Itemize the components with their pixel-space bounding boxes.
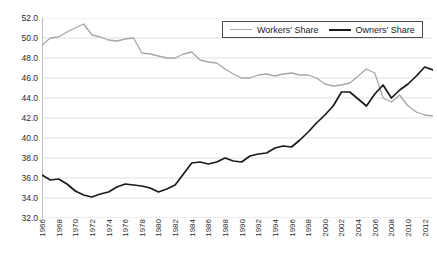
y-axis-tick-label: 38.0 — [0, 154, 38, 162]
x-axis-tick-label: 2002 — [337, 219, 346, 237]
legend-swatch-workers-share — [230, 29, 252, 30]
x-axis-tick-label: 1966 — [38, 219, 47, 237]
y-axis-tick-label: 46.0 — [0, 74, 38, 82]
x-axis-tick-label: 2000 — [321, 219, 330, 237]
line-chart: 52.050.048.046.044.042.040.038.036.034.0… — [0, 0, 437, 260]
x-axis-tick-label: 1972 — [88, 219, 97, 237]
x-axis-tick-label: 1984 — [188, 219, 197, 237]
x-axis-tick-label: 1990 — [238, 219, 247, 237]
legend-label-workers-share: Workers' Share — [257, 25, 319, 35]
y-axis-tick-label: 48.0 — [0, 54, 38, 62]
plot-svg — [42, 18, 433, 218]
y-axis-tick-label: 42.0 — [0, 114, 38, 122]
y-axis-tick-label: 44.0 — [0, 94, 38, 102]
x-axis-tick-label: 2012 — [421, 219, 430, 237]
chart-legend: Workers' Share Owners' Share — [222, 21, 423, 38]
x-axis-labels: 1966196819701972197419761978198019821984… — [42, 219, 433, 260]
x-axis-tick-label: 1978 — [138, 219, 147, 237]
x-axis-tick-label: 1970 — [71, 219, 80, 237]
legend-swatch-owners-share — [329, 29, 351, 31]
x-axis-tick-label: 1976 — [121, 219, 130, 237]
x-axis-tick-label: 2010 — [404, 219, 413, 237]
series-line-owners-share — [42, 67, 433, 197]
x-axis-tick-label: 1988 — [221, 219, 230, 237]
y-axis-tick-label: 50.0 — [0, 34, 38, 42]
y-axis-tick-label: 34.0 — [0, 194, 38, 202]
y-axis-labels: 52.050.048.046.044.042.040.038.036.034.0… — [0, 0, 38, 236]
legend-label-owners-share: Owners' Share — [356, 25, 415, 35]
x-axis-tick-label: 2006 — [371, 219, 380, 237]
legend-item-workers-share: Workers' Share — [230, 25, 319, 35]
y-axis-tick-label: 40.0 — [0, 134, 38, 142]
x-axis-tick-label: 1998 — [304, 219, 313, 237]
y-axis-tick-label: 36.0 — [0, 174, 38, 182]
legend-item-owners-share: Owners' Share — [329, 25, 415, 35]
y-axis-tick-label: 52.0 — [0, 14, 38, 22]
y-axis-tick-label: 32.0 — [0, 214, 38, 222]
x-axis-tick-label: 1982 — [171, 219, 180, 237]
x-axis-tick-label: 1986 — [204, 219, 213, 237]
x-axis-tick-label: 1996 — [288, 219, 297, 237]
x-axis-tick-label: 1980 — [154, 219, 163, 237]
x-axis-tick-label: 1992 — [254, 219, 263, 237]
x-axis-tick-label: 1974 — [105, 219, 114, 237]
x-axis-tick-label: 1968 — [55, 219, 64, 237]
x-axis-tick-label: 1994 — [271, 219, 280, 237]
x-axis-tick-label: 2004 — [354, 219, 363, 237]
plot-area — [42, 18, 433, 218]
x-axis-tick-label: 2008 — [387, 219, 396, 237]
